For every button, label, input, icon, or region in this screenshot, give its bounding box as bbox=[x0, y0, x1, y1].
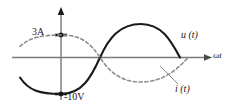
y-axis bbox=[58, 7, 65, 100]
it-label-leader-line bbox=[160, 66, 178, 84]
waveform-plot-svg bbox=[0, 0, 235, 111]
x-axis-arrowhead-icon bbox=[204, 54, 212, 61]
current-curve-it bbox=[20, 35, 188, 82]
waveform-figure: 3A -10V u (t) i (t) ωt bbox=[0, 0, 235, 111]
label-curve-voltage: u (t) bbox=[181, 30, 198, 40]
label-axis-omega-t: ωt bbox=[213, 51, 222, 60]
label-amplitude-current: 3A bbox=[32, 27, 44, 37]
label-curve-current: i (t) bbox=[175, 84, 190, 94]
y-axis-arrowhead-icon bbox=[58, 7, 65, 15]
x-axis bbox=[12, 54, 212, 61]
label-amplitude-voltage: -10V bbox=[64, 92, 85, 102]
